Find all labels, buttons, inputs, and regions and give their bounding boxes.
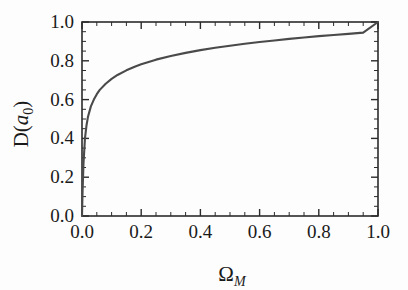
- y-tick-label: 0.6: [50, 89, 74, 110]
- y-tick-label: 0.0: [50, 205, 74, 226]
- plot-area: 0.00.20.40.60.81.0 0.00.20.40.60.81.0 ΩM…: [0, 0, 408, 290]
- x-tick-label: 0.4: [189, 221, 213, 242]
- x-tick-label: 0.2: [129, 221, 153, 242]
- y-axis-title: D(a0): [9, 101, 36, 148]
- y-tick-label: 0.4: [50, 127, 74, 148]
- x-tick-label: 0.8: [307, 221, 331, 242]
- x-tick-label: 1.0: [366, 221, 390, 242]
- y-tick-label: 0.8: [50, 50, 74, 71]
- y-tick-label: 1.0: [50, 11, 74, 32]
- x-tick-label: 0.6: [248, 221, 272, 242]
- figure-panel: 0.00.20.40.60.81.0 0.00.20.40.60.81.0 ΩM…: [0, 0, 408, 290]
- y-tick-label: 0.2: [50, 166, 74, 187]
